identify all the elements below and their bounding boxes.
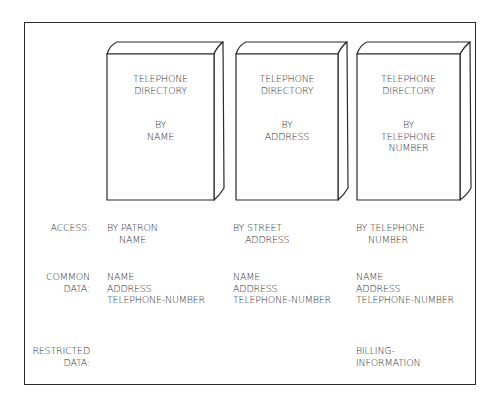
- data-field: BILLING-: [356, 345, 420, 357]
- col-2-access: BY STREET ADDRESS: [233, 222, 289, 245]
- data-field: ADDRESS: [356, 283, 454, 295]
- row-label-common-data: COMMON DATA:: [20, 271, 90, 294]
- book-1-subtitle: BY NAME: [107, 119, 214, 142]
- book-subtitle-line: BY: [357, 119, 460, 131]
- label-text: DATA:: [20, 283, 90, 295]
- data-field: ADDRESS: [233, 283, 331, 295]
- book-subtitle-line: ADDRESS: [236, 131, 338, 143]
- data-field: NAME: [356, 271, 454, 283]
- data-field: NAME: [107, 271, 205, 283]
- data-field: TELEPHONE-NUMBER: [356, 294, 454, 306]
- book-subtitle-line: NUMBER: [357, 142, 460, 154]
- row-label-restricted-data: RESTRICTED DATA:: [20, 345, 90, 368]
- access-line: NUMBER: [356, 234, 425, 246]
- label-text: COMMON: [20, 271, 90, 283]
- book-title-line: DIRECTORY: [107, 85, 214, 97]
- access-line: BY PATRON: [107, 222, 158, 234]
- label-text: DATA:: [20, 357, 90, 369]
- book-subtitle-line: BY: [236, 119, 338, 131]
- book-3-title: TELEPHONE DIRECTORY: [357, 73, 460, 96]
- book-title-line: TELEPHONE: [357, 73, 460, 85]
- data-field: TELEPHONE-NUMBER: [233, 294, 331, 306]
- col-2-common-data: NAME ADDRESS TELEPHONE-NUMBER: [233, 271, 331, 306]
- access-line: NAME: [107, 234, 158, 246]
- book-subtitle-line: TELEPHONE: [357, 131, 460, 143]
- data-field: INFORMATION: [356, 357, 420, 369]
- label-text: ACCESS:: [20, 222, 90, 234]
- col-1-common-data: NAME ADDRESS TELEPHONE-NUMBER: [107, 271, 205, 306]
- book-3-subtitle: BY TELEPHONE NUMBER: [357, 119, 460, 154]
- col-3-restricted-data: BILLING- INFORMATION: [356, 345, 420, 368]
- data-field: ADDRESS: [107, 283, 205, 295]
- col-1-access: BY PATRON NAME: [107, 222, 158, 245]
- book-title-line: TELEPHONE: [107, 73, 214, 85]
- data-field: NAME: [233, 271, 331, 283]
- book-2-subtitle: BY ADDRESS: [236, 119, 338, 142]
- book-subtitle-line: NAME: [107, 131, 214, 143]
- book-title-line: DIRECTORY: [236, 85, 338, 97]
- book-title-line: DIRECTORY: [357, 85, 460, 97]
- col-3-common-data: NAME ADDRESS TELEPHONE-NUMBER: [356, 271, 454, 306]
- book-1-title: TELEPHONE DIRECTORY: [107, 73, 214, 96]
- book-title-line: TELEPHONE: [236, 73, 338, 85]
- access-line: ADDRESS: [233, 234, 289, 246]
- data-field: TELEPHONE-NUMBER: [107, 294, 205, 306]
- book-2-title: TELEPHONE DIRECTORY: [236, 73, 338, 96]
- row-label-access: ACCESS:: [20, 222, 90, 234]
- col-3-access: BY TELEPHONE NUMBER: [356, 222, 425, 245]
- access-line: BY TELEPHONE: [356, 222, 425, 234]
- access-line: BY STREET: [233, 222, 289, 234]
- book-subtitle-line: BY: [107, 119, 214, 131]
- label-text: RESTRICTED: [20, 345, 90, 357]
